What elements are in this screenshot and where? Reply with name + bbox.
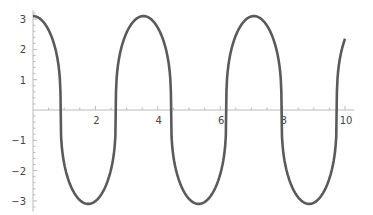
y-tick-label: −2 [11,166,26,177]
axes: 246810−3−2−1123 [11,10,354,211]
x-tick-label: 2 [93,115,99,126]
y-tick-label: 1 [20,75,26,86]
y-tick-label: 2 [20,44,26,55]
y-tick-label: 3 [20,14,26,25]
x-tick-label: 4 [156,115,162,126]
y-tick-label: −1 [11,135,26,146]
line-chart: 246810−3−2−1123 [0,0,373,215]
y-tick-label: −3 [11,196,26,207]
x-tick-label: 10 [340,115,353,126]
x-tick-label: 6 [218,115,224,126]
